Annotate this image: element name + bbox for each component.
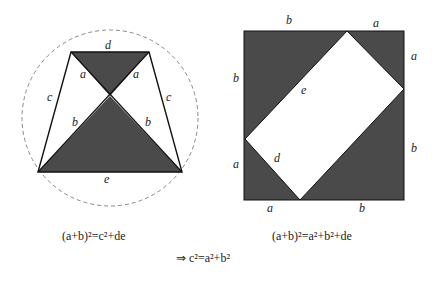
label-a-left: a [80,67,86,81]
right-figure: b a a b b a a b e d [233,13,417,215]
label-top-b: b [286,13,292,27]
conclusion: ⇒ c²=a²+b² [176,251,230,266]
bottom-dark-triangle [38,96,182,172]
label-b-left: b [72,115,78,129]
label-left-b: b [233,71,239,85]
label-right-b: b [411,141,417,155]
label-b-right: b [145,115,151,129]
left-caption: (a+b)²=c²+de [62,229,125,244]
label-left-a: a [233,157,239,171]
label-top-a: a [373,16,379,30]
right-caption: (a+b)²=a²+b²+de [272,229,352,244]
label-rect-d: d [274,151,281,165]
conclusion-text: ⇒ c²=a²+b² [176,251,230,265]
label-a-right: a [133,67,139,81]
left-figure: d e a a b b c c [22,30,198,206]
label-rect-e: e [301,83,307,97]
label-right-a: a [411,49,417,63]
left-caption-text: (a+b)²=c²+de [62,229,125,243]
label-bottom-a: a [267,201,273,215]
label-d: d [105,38,112,52]
label-c-right: c [166,90,172,104]
label-bottom-b: b [359,201,365,215]
label-c-left: c [47,90,53,104]
label-e: e [104,172,110,186]
right-caption-text: (a+b)²=a²+b²+de [272,229,352,243]
